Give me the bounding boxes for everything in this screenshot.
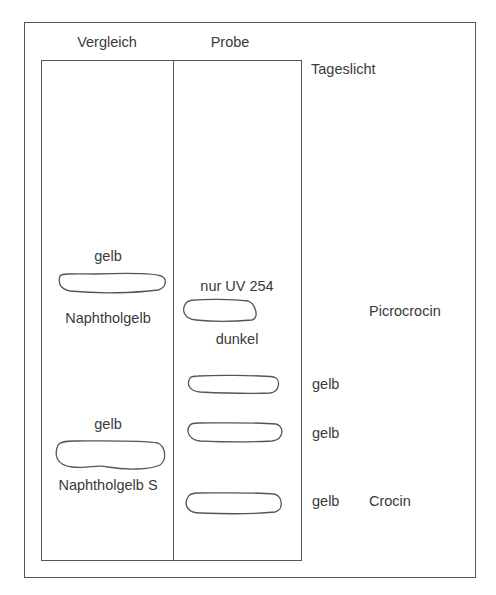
sample-spot-4-color: gelb [312, 494, 339, 509]
sample-spot-2 [188, 375, 278, 393]
reference-spot-1-color: gelb [94, 249, 121, 264]
sample-spot-1-appearance: dunkel [216, 332, 259, 347]
sample-spot-4 [186, 493, 281, 514]
reference-spot-1 [59, 273, 165, 292]
sample-spot-1-detection: nur UV 254 [200, 279, 273, 294]
reference-spot-2 [56, 441, 164, 469]
compound-crocin: Crocin [369, 494, 411, 509]
sample-spot-3 [188, 423, 282, 442]
reference-spot-2-name: Naphtholgelb S [58, 478, 157, 493]
spots-layer [0, 0, 496, 595]
compound-picrocrocin: Picrocrocin [369, 304, 441, 319]
sample-spot-1 [184, 299, 256, 321]
reference-spot-2-color: gelb [94, 417, 121, 432]
sample-spot-2-color: gelb [312, 377, 339, 392]
reference-spot-1-name: Naphtholgelb [65, 311, 150, 326]
sample-spot-3-color: gelb [312, 426, 339, 441]
